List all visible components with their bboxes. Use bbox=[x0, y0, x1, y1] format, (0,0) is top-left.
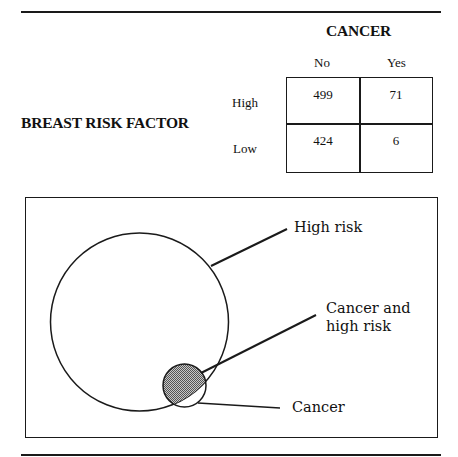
label-cancer: Cancer bbox=[292, 399, 345, 415]
intersection-leader-line bbox=[201, 315, 316, 373]
bottom-rule bbox=[21, 454, 441, 456]
label-high-risk: High risk bbox=[294, 219, 362, 235]
label-cancer-and-high-risk-line1: Cancer and bbox=[326, 300, 411, 316]
high-risk-leader-line bbox=[211, 229, 287, 266]
cancer-leader-line bbox=[198, 403, 280, 408]
venn-diagram bbox=[0, 0, 458, 457]
label-cancer-and-high-risk-line2: high risk bbox=[326, 318, 391, 334]
